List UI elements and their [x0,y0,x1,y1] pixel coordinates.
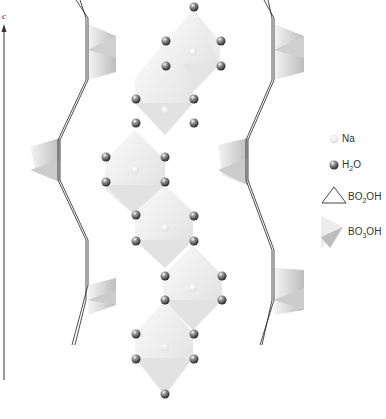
bo2oh-legend-icon [322,187,346,203]
legend-label-h2o: H2O [342,159,361,172]
c-axis-label: c [2,11,6,21]
na-legend-icon [330,135,339,144]
legend [321,135,346,249]
legend-label-na: Na [342,133,355,144]
c-axis [2,24,7,380]
legend-label-bo2oh: BO2OH [348,191,381,204]
right-borate-chain [218,0,304,345]
legend-label-bo3oh: BO3OH [348,226,381,239]
h2o-legend-icon [330,161,339,170]
left-borate-chain [30,0,116,345]
crystal-structure-figure: c Na H2O BO2OH BO3OH [0,0,386,419]
